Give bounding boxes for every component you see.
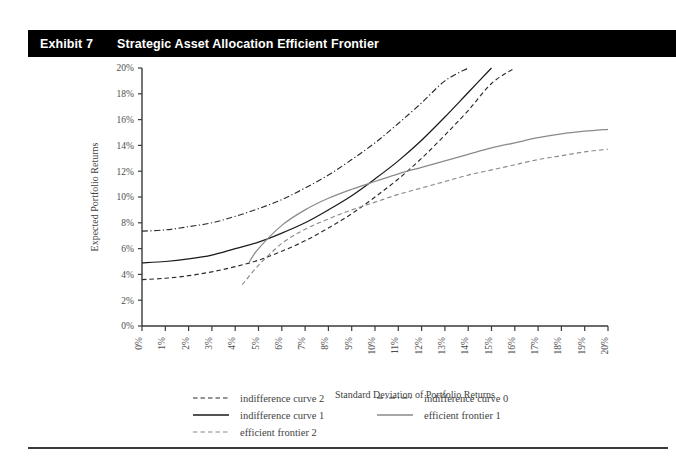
legend-label: indifference curve 0 bbox=[424, 393, 508, 404]
chart-axis-titles: Standard Deviation of Portfolio ReturnsE… bbox=[89, 142, 495, 400]
x-axis-tick-label: 18% bbox=[553, 337, 563, 355]
series-line bbox=[142, 68, 468, 231]
x-axis-tick-label: 16% bbox=[507, 337, 517, 355]
x-axis-tick-label: 17% bbox=[530, 337, 540, 355]
legend-item: efficient frontier 1 bbox=[377, 410, 501, 421]
x-axis-tick-label: 14% bbox=[460, 337, 470, 355]
x-axis-tick-label: 15% bbox=[484, 337, 494, 355]
x-axis-tick-label: 20% bbox=[600, 337, 610, 355]
x-axis-tick-label: 9% bbox=[344, 337, 354, 350]
x-axis-tick-label: 4% bbox=[227, 337, 237, 350]
y-axis-tick-label: 14% bbox=[117, 141, 135, 151]
series-line bbox=[142, 68, 515, 280]
legend-label: indifference curve 2 bbox=[240, 393, 324, 404]
y-axis-tick-label: 18% bbox=[117, 89, 135, 99]
legend-item: indifference curve 2 bbox=[193, 393, 324, 404]
x-axis-tick-label: 8% bbox=[320, 337, 330, 350]
x-axis-tick-label: 12% bbox=[414, 337, 424, 355]
y-axis-tick-label: 4% bbox=[121, 270, 134, 280]
x-axis-tick-label: 5% bbox=[251, 337, 261, 350]
x-axis-tick-label: 7% bbox=[297, 337, 307, 350]
x-axis-tick-label: 3% bbox=[204, 337, 214, 350]
chart-tick-labels: 0%2%4%6%8%10%12%14%16%18%20%0%1%2%3%4%5%… bbox=[117, 63, 610, 354]
x-axis-tick-label: 10% bbox=[367, 337, 377, 355]
y-axis-tick-label: 10% bbox=[117, 192, 135, 202]
x-axis-tick-label: 1% bbox=[157, 337, 167, 350]
y-axis-tick-label: 12% bbox=[117, 167, 135, 177]
x-axis-tick-label: 6% bbox=[274, 337, 284, 350]
x-axis-tick-label: 13% bbox=[437, 337, 447, 355]
y-axis-tick-label: 6% bbox=[121, 244, 134, 254]
legend-item: efficient frontier 2 bbox=[193, 427, 317, 438]
x-axis-tick-label: 19% bbox=[577, 337, 587, 355]
footer-rule bbox=[28, 447, 668, 449]
exhibit-figure: Exhibit 7 Strategic Asset Allocation Eff… bbox=[0, 0, 676, 466]
legend-label: efficient frontier 1 bbox=[424, 410, 501, 421]
y-axis-tick-label: 16% bbox=[117, 115, 135, 125]
y-axis-title: Expected Portfolio Returns bbox=[89, 142, 100, 251]
x-axis-tick-label: 0% bbox=[134, 337, 144, 350]
x-axis-tick-label: 11% bbox=[390, 337, 400, 354]
y-axis-tick-label: 20% bbox=[117, 63, 135, 73]
legend-label: indifference curve 1 bbox=[240, 410, 324, 421]
legend-item: indifference curve 1 bbox=[193, 410, 324, 421]
y-axis-tick-label: 2% bbox=[121, 296, 134, 306]
chart-axes bbox=[138, 68, 608, 331]
series-line bbox=[242, 149, 608, 284]
chart-series bbox=[142, 68, 608, 285]
legend-label: efficient frontier 2 bbox=[240, 427, 317, 438]
chart-plot: 0%2%4%6%8%10%12%14%16%18%20%0%1%2%3%4%5%… bbox=[0, 0, 676, 466]
y-axis-tick-label: 8% bbox=[121, 218, 134, 228]
series-line bbox=[142, 68, 492, 263]
y-axis-tick-label: 0% bbox=[121, 321, 134, 331]
x-axis-tick-label: 2% bbox=[181, 337, 191, 350]
